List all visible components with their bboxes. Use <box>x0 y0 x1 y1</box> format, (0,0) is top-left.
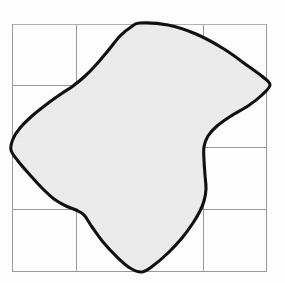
figure-container: Irregular region overlaid on a square gr… <box>0 0 285 283</box>
grid-region-figure <box>0 0 285 283</box>
